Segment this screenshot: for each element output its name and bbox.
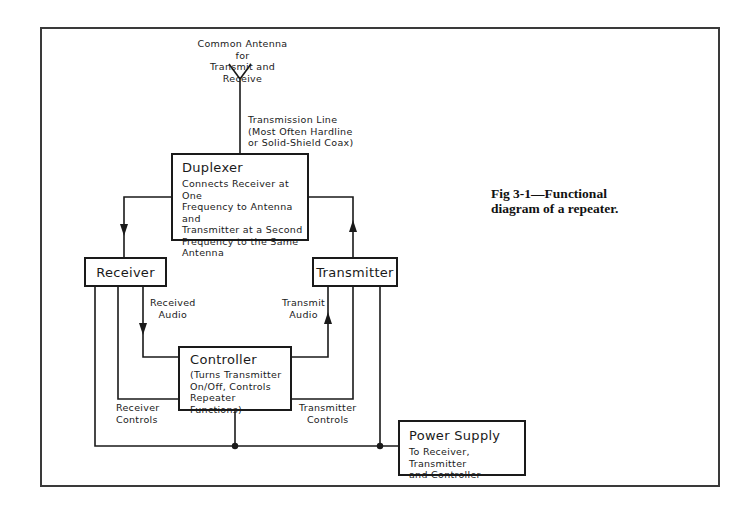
transmission-line-label: Transmission Line (Most Often Hardline o…: [248, 114, 353, 149]
transmission-line-label-line: or Solid-Shield Coax): [248, 137, 353, 149]
arrow-up-icon: [324, 312, 332, 324]
figure-caption: Fig 3-1—Functional diagram of a repeater…: [491, 186, 618, 216]
transmitter-title: Transmitter: [316, 265, 393, 280]
power-supply-block: Power Supply To Receiver, Transmitter an…: [398, 420, 526, 476]
received-audio-label: Received Audio: [150, 297, 196, 320]
junction-dot-icon: [377, 443, 383, 449]
antenna-label-line: Transmit and Receive: [195, 61, 290, 84]
controller-desc-line: On/Off, Controls: [190, 381, 290, 393]
signal-label-line: Audio: [282, 309, 325, 321]
power-supply-desc-line: To Receiver, Transmitter: [409, 446, 524, 469]
receiver-controls-label: Receiver Controls: [116, 402, 160, 425]
transmission-line-label-line: Transmission Line: [248, 114, 353, 126]
antenna-label-line: Common Antenna for: [195, 38, 290, 61]
controller-block: Controller (Turns Transmitter On/Off, Co…: [178, 346, 292, 411]
duplexer-title: Duplexer: [182, 160, 307, 175]
signal-label-line: Receiver: [116, 402, 160, 414]
transmission-line-label-line: (Most Often Hardline: [248, 126, 353, 138]
arrow-down-icon: [120, 224, 128, 236]
junction-dot-icon: [232, 443, 238, 449]
arrow-up-icon: [349, 220, 357, 232]
signal-label-line: Audio: [150, 309, 196, 321]
signal-label-line: Received: [150, 297, 196, 309]
duplexer-block: Duplexer Connects Receiver at One Freque…: [171, 153, 309, 241]
controller-desc-line: (Turns Transmitter: [190, 369, 290, 381]
signal-label-line: Transmitter: [299, 402, 357, 414]
receiver-block: Receiver: [84, 257, 167, 287]
arrow-down-icon: [139, 323, 147, 335]
duplexer-to-receiver-wire: [124, 197, 172, 258]
signal-label-line: Controls: [116, 414, 160, 426]
signal-label-line: Transmit: [282, 297, 325, 309]
controller-title: Controller: [190, 352, 290, 367]
transmitter-to-duplexer-wire: [307, 197, 353, 258]
controller-desc-line: Repeater Functions): [190, 392, 290, 415]
duplexer-desc-line: Connects Receiver at One: [182, 178, 307, 201]
receiver-title: Receiver: [96, 265, 155, 280]
transmitter-controls-label: Transmitter Controls: [299, 402, 357, 425]
duplexer-desc-line: Frequency to the Same: [182, 236, 307, 248]
caption-line: diagram of a repeater.: [491, 201, 618, 216]
duplexer-desc-line: Frequency to Antenna and: [182, 201, 307, 224]
signal-label-line: Controls: [299, 414, 357, 426]
transmitter-block: Transmitter: [312, 257, 398, 287]
antenna-label: Common Antenna for Transmit and Receive: [195, 38, 290, 84]
power-supply-title: Power Supply: [409, 428, 524, 443]
caption-line: Fig 3-1—Functional: [491, 186, 618, 201]
transmit-audio-label: Transmit Audio: [282, 297, 325, 320]
duplexer-desc-line: Antenna: [182, 247, 307, 259]
power-supply-desc-line: and Controller: [409, 469, 524, 481]
duplexer-desc-line: Transmitter at a Second: [182, 224, 307, 236]
